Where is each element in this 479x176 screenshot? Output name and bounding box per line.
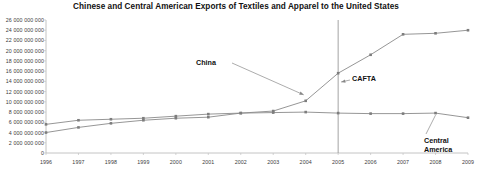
cafta-annotation-label: CAFTA [352, 74, 376, 83]
data-point-marker [142, 117, 145, 120]
data-point-marker [45, 123, 48, 126]
data-point-marker [207, 116, 210, 119]
series-line [46, 30, 468, 132]
data-point-marker [304, 100, 307, 103]
annotation-leader-lines [232, 63, 436, 134]
data-point-marker [110, 122, 113, 125]
data-point-marker [272, 111, 275, 114]
data-point-marker [337, 72, 340, 75]
data-point-marker [175, 115, 178, 118]
data-point-marker [369, 53, 372, 56]
data-point-marker [369, 112, 372, 115]
data-point-marker [434, 112, 437, 115]
china-leader-line [232, 63, 304, 95]
data-point-marker [402, 33, 405, 36]
data-series-china [45, 29, 470, 134]
data-point-marker [304, 111, 307, 114]
data-point-marker [402, 112, 405, 115]
central-america-annotation-label: Central America [424, 136, 470, 154]
data-point-marker [110, 118, 113, 121]
data-point-marker [77, 119, 80, 122]
data-point-marker [77, 126, 80, 129]
data-point-marker [337, 112, 340, 115]
data-point-marker [45, 131, 48, 134]
axes [44, 20, 468, 155]
data-point-marker [467, 29, 470, 32]
cafta-leader-line [341, 79, 350, 82]
data-point-marker [467, 116, 470, 119]
data-point-marker [239, 112, 242, 115]
china-annotation-label: China [196, 58, 216, 67]
data-point-marker [434, 32, 437, 35]
data-point-marker [207, 113, 210, 116]
series-line [46, 112, 468, 124]
central-america-leader-line [426, 115, 436, 134]
data-series-group [45, 29, 470, 134]
